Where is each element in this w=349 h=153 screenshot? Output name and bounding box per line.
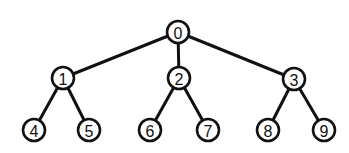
node-label: 9	[320, 123, 329, 140]
tree-node-1: 1	[52, 67, 74, 89]
node-label: 8	[264, 123, 273, 140]
node-label: 5	[85, 123, 94, 140]
edge-0-1	[63, 32, 178, 78]
tree-node-0: 0	[167, 21, 189, 43]
node-label: 6	[146, 123, 155, 140]
node-label: 1	[59, 71, 68, 88]
tree-node-3: 3	[283, 68, 305, 90]
tree-nodes: 0123456789	[23, 21, 335, 141]
tree-diagram: 0123456789	[0, 0, 349, 153]
node-label: 0	[174, 25, 183, 42]
tree-node-7: 7	[197, 119, 219, 141]
tree-node-5: 5	[78, 119, 100, 141]
node-label: 7	[204, 123, 213, 140]
tree-node-6: 6	[139, 119, 161, 141]
edge-0-3	[178, 32, 294, 79]
node-label: 4	[30, 123, 39, 140]
node-label: 3	[290, 72, 299, 89]
tree-node-9: 9	[313, 119, 335, 141]
node-label: 2	[175, 71, 184, 88]
tree-node-4: 4	[23, 119, 45, 141]
tree-node-2: 2	[168, 67, 190, 89]
tree-node-8: 8	[257, 119, 279, 141]
